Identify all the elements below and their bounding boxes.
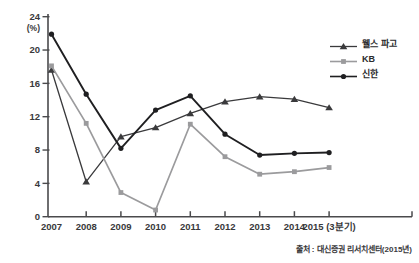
x-tick-label: 2013 (249, 221, 270, 232)
legend-item-kb: KB (330, 51, 397, 66)
x-tick-label: 2008 (76, 221, 97, 232)
legend-marker-kb-icon (330, 53, 357, 64)
legend-label-wells-fargo: 웰스 파고 (362, 37, 397, 50)
series-shinhan (49, 32, 332, 158)
legend-marker-shinhan-icon (330, 68, 357, 79)
legend: 웰스 파고 KB 신한 (330, 36, 397, 81)
legend-item-shinhan: 신한 (330, 66, 397, 81)
series-kb (49, 63, 331, 212)
y-tick-label: 8 (35, 144, 40, 155)
bank-roe-line-chart: 04812162024(%)20072008200920102011201220… (0, 0, 419, 263)
x-tick-label: 2007 (41, 221, 62, 232)
x-tick-label: 2012 (214, 221, 235, 232)
legend-item-wells-fargo: 웰스 파고 (330, 36, 397, 51)
x-tick-label: 2009 (110, 221, 131, 232)
source-note: 출처 : 대신증권 리서치센터(2015년) (296, 243, 412, 254)
y-tick-label: 16 (29, 78, 40, 89)
legend-label-kb: KB (362, 54, 375, 64)
y-tick-label: 24 (29, 11, 40, 22)
y-tick-label: 12 (29, 111, 40, 122)
y-axis-unit-label: (%) (27, 23, 40, 33)
legend-marker-wells-fargo-icon (330, 38, 357, 49)
y-tick-label: 4 (35, 178, 41, 189)
y-tick-label: 0 (35, 211, 40, 222)
x-tick-label: 2011 (180, 221, 201, 232)
x-tick-label: 2010 (145, 221, 166, 232)
y-tick-label: 20 (29, 44, 40, 55)
legend-label-shinhan: 신한 (362, 67, 378, 80)
x-tick-label: 2015 (3분기) (302, 221, 355, 232)
